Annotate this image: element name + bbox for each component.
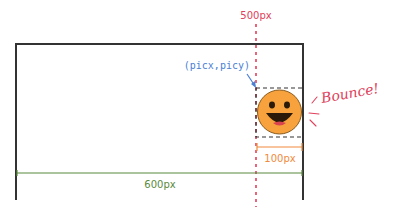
image-width-dimension — [257, 143, 302, 151]
canvas-width-dimension — [17, 170, 302, 176]
limit-label: 500px — [240, 10, 271, 21]
position-arrow — [247, 74, 256, 88]
bounce-label: Bounce! — [319, 80, 380, 106]
position-label: (picx,picy) — [184, 60, 250, 71]
bounce-diagram: 500px (picx,picy) Bounce! 100px 600px — [0, 0, 400, 213]
smiley-icon — [258, 90, 302, 134]
canvas-width-label: 600px — [144, 179, 175, 190]
impact-lines-icon — [309, 97, 319, 126]
image-width-label: 100px — [264, 153, 295, 164]
